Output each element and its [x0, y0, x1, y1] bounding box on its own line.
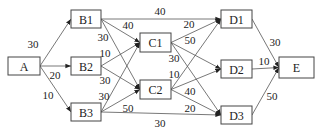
- node-e: E: [279, 57, 314, 78]
- node-label: D2: [229, 63, 244, 77]
- node-label: D1: [229, 13, 244, 27]
- edge-weight-label: 40: [155, 5, 167, 17]
- edge-weight-label: 40: [123, 19, 135, 31]
- edge-weight-label: 40: [185, 85, 197, 97]
- edge-weight-label: 30: [169, 52, 181, 64]
- edge-weight-label: 30: [100, 74, 112, 86]
- edge-weight-label: 20: [185, 102, 197, 114]
- nodes-layer: AB1B2B3C1C2D1D2D3E: [8, 10, 314, 124]
- edge-c2-d3: [171, 90, 221, 116]
- network-diagram: 3020104040301030305030205030104020301050…: [0, 0, 315, 133]
- edge-weight-label: 10: [259, 55, 271, 67]
- node-label: C2: [148, 83, 162, 97]
- edge-weight-label: 50: [267, 90, 279, 102]
- edge-weight-label: 30: [98, 31, 110, 43]
- node-d2: D2: [221, 60, 252, 78]
- node-label: E: [293, 61, 300, 75]
- edge-weight-label: 30: [28, 38, 40, 50]
- edge-weight-label: 10: [169, 68, 181, 80]
- edge-weight-label: 30: [155, 117, 167, 129]
- node-b2: B2: [71, 57, 101, 75]
- node-c1: C1: [140, 33, 171, 52]
- edge-b3-d3: [101, 112, 221, 115]
- edge-weight-label: 10: [43, 89, 55, 101]
- node-label: B1: [79, 13, 93, 27]
- diagram-canvas: 3020104040301030305030205030104020301050…: [0, 0, 315, 133]
- node-d3: D3: [221, 106, 252, 124]
- edge-a-b1: [40, 19, 71, 66]
- edge-weight-label: 30: [270, 36, 282, 48]
- edge-weight-label: 30: [99, 90, 111, 102]
- edge-weight-label: 20: [184, 18, 196, 30]
- node-label: C1: [148, 36, 162, 50]
- node-label: B2: [79, 60, 93, 74]
- node-b3: B3: [71, 103, 101, 121]
- edge-c1-d1: [171, 19, 221, 43]
- edge-weight-label: 50: [123, 102, 135, 114]
- node-d1: D1: [221, 10, 252, 28]
- node-a: A: [8, 57, 40, 75]
- node-label: A: [20, 60, 29, 74]
- edge-weight-label: 20: [50, 69, 62, 81]
- edge-d2-e: [252, 68, 279, 70]
- node-label: B3: [79, 106, 93, 120]
- node-c2: C2: [140, 80, 171, 99]
- node-label: D3: [229, 109, 244, 123]
- node-b1: B1: [71, 10, 101, 28]
- edge-weight-label: 50: [185, 34, 197, 46]
